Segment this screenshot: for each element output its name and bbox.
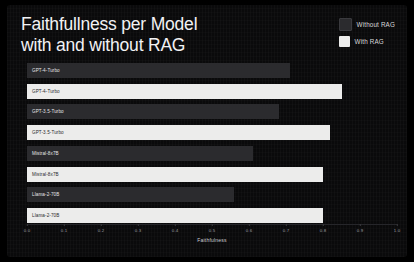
bar[interactable]: GPT-4-Turbo [27, 84, 342, 99]
slide-canvas: Faithfullness per Model with and without… [7, 5, 407, 257]
x-axis-tick: 0.6 [246, 224, 252, 233]
bar[interactable]: Llama-2-70B [27, 187, 234, 202]
tick-mark-icon [138, 224, 139, 226]
bar[interactable]: GPT-3.5-Turbo [27, 104, 279, 119]
tick-mark-icon [27, 224, 28, 226]
x-axis-ticks: 0.00.10.20.30.40.50.60.70.80.91.0 [27, 224, 397, 236]
x-axis-tick: 0.2 [98, 224, 104, 233]
bar[interactable]: Mistral-8x7B [27, 167, 323, 182]
bar-label: Llama-2-70B [32, 213, 59, 218]
bar-group: Llama-2-70BLlama-2-70B [27, 187, 397, 223]
bar-label: GPT-3.5-Turbo [32, 109, 64, 114]
tick-mark-icon [249, 224, 250, 226]
x-axis-label: Faithfulness [27, 237, 397, 243]
chart-legend: Without RAGWith RAG [339, 18, 395, 47]
x-axis-tick: 0.5 [209, 224, 215, 233]
bar[interactable]: Mistral-8x7B [27, 146, 253, 161]
tick-mark-icon [286, 224, 287, 226]
bar[interactable]: GPT-4-Turbo [27, 63, 290, 78]
tick-mark-icon [101, 224, 102, 226]
x-axis-tick: 0.7 [283, 224, 289, 233]
x-axis-tick: 0.3 [135, 224, 141, 233]
tick-mark-icon [360, 224, 361, 226]
x-axis-tick: 1.0 [394, 224, 400, 233]
bar-label: Mistral-8x7B [32, 151, 59, 156]
legend-item-label: Without RAG [357, 21, 395, 28]
x-axis-tick: 0.8 [320, 224, 326, 233]
page-title: Faithfullness per Model with and without… [21, 14, 271, 57]
tick-mark-icon [64, 224, 65, 226]
legend-item[interactable]: Without RAG [339, 18, 395, 31]
x-axis-tick: 0.4 [172, 224, 178, 233]
bar-group: GPT-3.5-TurboGPT-3.5-Turbo [27, 104, 397, 140]
tick-mark-icon [397, 224, 398, 226]
bar-group: Mistral-8x7BMistral-8x7B [27, 146, 397, 182]
bar[interactable]: Llama-2-70B [27, 208, 323, 223]
tick-mark-icon [175, 224, 176, 226]
tick-mark-icon [323, 224, 324, 226]
x-axis: 0.00.10.20.30.40.50.60.70.80.91.0 Faithf… [27, 224, 397, 254]
bar[interactable]: GPT-3.5-Turbo [27, 125, 330, 140]
x-axis-tick: 0.9 [357, 224, 363, 233]
x-axis-tick: 0.0 [24, 224, 30, 233]
x-axis-tick: 0.1 [61, 224, 67, 233]
legend-item[interactable]: With RAG [339, 36, 395, 47]
chart-plot-area: GPT-4-TurboGPT-4-TurboGPT-3.5-TurboGPT-3… [27, 63, 397, 223]
bar-label: Llama-2-70B [32, 192, 59, 197]
legend-swatch-icon [339, 36, 350, 47]
tick-mark-icon [212, 224, 213, 226]
bar-label: Mistral-8x7B [32, 172, 59, 177]
bar-group: GPT-4-TurboGPT-4-Turbo [27, 63, 397, 99]
bar-label: GPT-3.5-Turbo [32, 130, 64, 135]
bar-label: GPT-4-Turbo [32, 89, 60, 94]
legend-swatch-icon [339, 18, 352, 31]
bar-label: GPT-4-Turbo [32, 68, 60, 73]
bar-groups: GPT-4-TurboGPT-4-TurboGPT-3.5-TurboGPT-3… [27, 63, 397, 223]
legend-item-label: With RAG [355, 38, 384, 45]
